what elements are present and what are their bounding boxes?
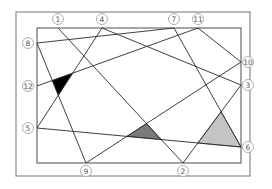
- point-label-4: 4: [97, 14, 108, 25]
- outer-frame: [16, 12, 250, 176]
- point-label-8: 8: [23, 38, 34, 49]
- label-number: 5: [26, 124, 31, 133]
- segment-3-2: [183, 85, 241, 163]
- light-gray-triangle: [198, 112, 241, 147]
- label-number: 2: [181, 167, 186, 176]
- point-label-1: 1: [53, 14, 64, 25]
- geometry-diagram: 123456789101112: [0, 0, 272, 189]
- point-label-7: 7: [169, 14, 180, 25]
- point-label-9: 9: [81, 166, 92, 177]
- segment-4-3: [102, 28, 241, 85]
- label-number: 7: [172, 15, 177, 24]
- segment-7-6: [174, 28, 241, 147]
- label-number: 10: [243, 58, 253, 67]
- point-label-6: 6: [243, 142, 254, 153]
- point-labels: 123456789101112: [23, 14, 254, 177]
- segment-1-2: [58, 28, 183, 163]
- point-label-12: 12: [23, 81, 34, 92]
- segment-11-10: [198, 28, 241, 62]
- point-label-2: 2: [178, 166, 189, 177]
- point-label-11: 11: [193, 14, 204, 25]
- label-number: 8: [26, 39, 31, 48]
- label-number: 3: [246, 81, 251, 90]
- segment-9-10: [86, 62, 241, 163]
- segment-8-9: [37, 43, 86, 163]
- label-number: 6: [246, 143, 251, 152]
- point-label-5: 5: [23, 123, 34, 134]
- label-number: 11: [193, 15, 203, 24]
- point-label-10: 10: [243, 57, 254, 68]
- point-label-3: 3: [243, 80, 254, 91]
- label-number: 1: [56, 15, 61, 24]
- label-number: 12: [23, 82, 33, 91]
- shaded-regions: [52, 73, 241, 147]
- segment-8-7: [37, 28, 174, 43]
- label-number: 4: [100, 15, 105, 24]
- segment-4-5: [37, 28, 102, 128]
- label-number: 9: [84, 167, 89, 176]
